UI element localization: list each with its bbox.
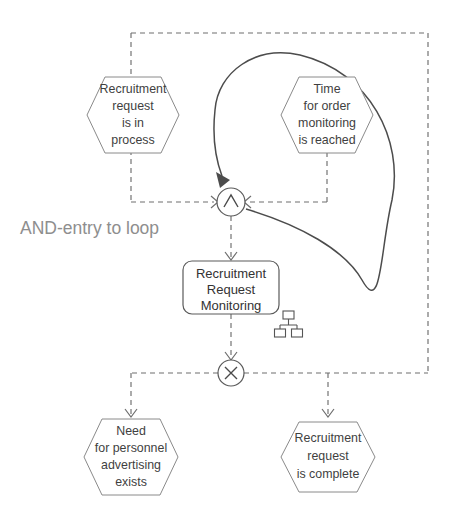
organizational-chart-icon <box>275 311 303 337</box>
and-connector[interactable] <box>217 188 245 216</box>
event-line-2: request <box>112 99 154 113</box>
event-need-for-personnel-advertising-exists[interactable]: Need for personnel advertising exists <box>84 419 178 495</box>
event-line-1: Time <box>313 82 340 96</box>
event-line-2: for order <box>304 99 351 113</box>
event-line-3: advertising <box>101 458 161 472</box>
event-line-3: is complete <box>297 467 360 481</box>
flow-right-branch <box>244 152 327 208</box>
event-recruitment-request-in-process[interactable]: Recruitment request is in process <box>87 77 179 153</box>
and-connector-circle <box>217 188 245 216</box>
flow-left-branch <box>131 196 218 208</box>
event-line-3: is in <box>122 116 144 130</box>
event-recruitment-request-complete[interactable]: Recruitment request is complete <box>281 422 375 492</box>
event-line-4: exists <box>115 475 147 489</box>
flow-function-to-xor <box>225 314 237 360</box>
and-entry-annotation-label: AND-entry to loop <box>20 218 159 238</box>
org-icon-connector-lines <box>280 319 297 329</box>
org-icon-child-node-left <box>275 329 286 337</box>
control-flow-frame <box>131 33 428 415</box>
org-icon-top-node <box>283 311 294 319</box>
event-line-3: monitoring <box>298 116 356 130</box>
event-line-1: Recruitment <box>295 431 362 445</box>
function-line-2: Request <box>207 282 256 297</box>
function-recruitment-request-monitoring[interactable]: Recruitment Request Monitoring <box>183 261 279 314</box>
event-line-4: process <box>111 133 154 147</box>
function-line-3: Monitoring <box>201 298 262 313</box>
flow-xor-left-branch <box>125 373 218 417</box>
flow-and-to-function <box>225 216 237 260</box>
xor-connector[interactable] <box>218 360 244 386</box>
function-line-1: Recruitment <box>196 266 266 281</box>
diagram-canvas: Recruitment request is in process Time f… <box>0 0 455 513</box>
event-line-4: is reached <box>298 133 355 147</box>
org-icon-child-node-right <box>292 329 303 337</box>
epc-diagram: Recruitment request is in process Time f… <box>0 0 455 513</box>
loop-arrowhead <box>216 172 230 188</box>
event-line-1: Recruitment <box>100 82 167 96</box>
event-line-1: Need <box>116 424 146 438</box>
event-line-2: for personnel <box>95 441 167 455</box>
event-time-for-order-monitoring-reached[interactable]: Time for order monitoring is reached <box>281 77 373 153</box>
event-line-2: request <box>307 449 349 463</box>
